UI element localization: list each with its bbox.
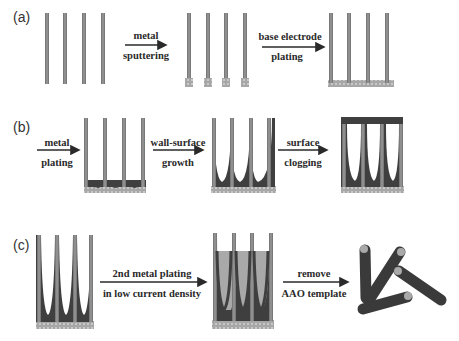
schematic-drawing (0, 0, 459, 341)
template-clogged-start (36, 235, 94, 329)
template-sputtered (185, 13, 249, 87)
template-second-metal (212, 233, 274, 329)
template-base-electrode (328, 13, 394, 87)
template-surface-clogged (341, 117, 404, 193)
released-nanotubes (360, 245, 441, 309)
template-empty (45, 13, 105, 84)
template-wall-growth (211, 118, 276, 193)
nanotube-1 (360, 245, 368, 298)
template-metal-plated (84, 118, 146, 193)
